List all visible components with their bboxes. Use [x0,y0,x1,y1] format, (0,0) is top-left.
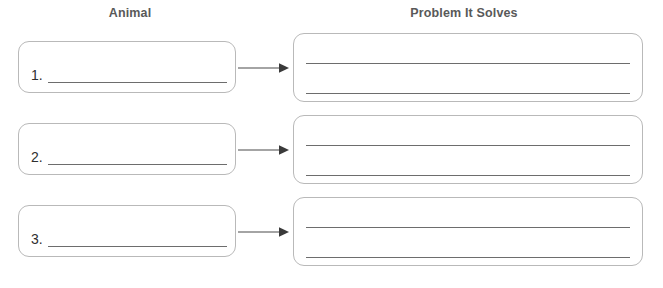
arrow-right-icon [238,61,293,75]
animal-answer-line[interactable] [48,246,227,247]
problem-answer-lines [306,116,630,183]
animal-answer-inner: 3. [31,232,227,247]
row-number: 1. [31,68,43,83]
animal-answer-box[interactable]: 3. [18,205,236,257]
worksheet: Animal Problem It Solves 1. 2. [0,0,663,288]
problem-answer-line-1[interactable] [306,145,630,146]
problem-answer-line-1[interactable] [306,63,630,64]
problem-answer-line-2[interactable] [306,93,630,94]
problem-answer-line-2[interactable] [306,175,630,176]
worksheet-row: 3. [0,197,663,269]
arrow-right-icon [238,225,293,239]
problem-answer-box[interactable] [293,33,643,102]
problem-answer-box[interactable] [293,115,643,184]
animal-answer-line[interactable] [48,164,227,165]
worksheet-row: 2. [0,115,663,187]
row-number: 3. [31,232,43,247]
arrow-right-icon [238,143,293,157]
animal-answer-box[interactable]: 1. [18,41,236,93]
animal-answer-inner: 1. [31,68,227,83]
column-heading-animal: Animal [109,6,152,20]
problem-answer-line-1[interactable] [306,227,630,228]
animal-answer-line[interactable] [48,82,227,83]
worksheet-row: 1. [0,33,663,105]
problem-answer-lines [306,34,630,101]
column-heading-problem: Problem It Solves [410,6,517,20]
row-number: 2. [31,150,43,165]
animal-answer-box[interactable]: 2. [18,123,236,175]
animal-answer-inner: 2. [31,150,227,165]
problem-answer-box[interactable] [293,197,643,266]
problem-answer-line-2[interactable] [306,257,630,258]
problem-answer-lines [306,198,630,265]
